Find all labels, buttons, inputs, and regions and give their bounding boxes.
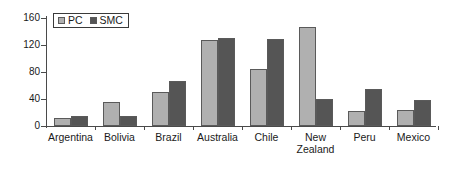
y-axis-tick-text: 0 [4,121,40,131]
bar-pc [250,69,267,126]
category-label: Mexico [383,131,444,143]
x-axis-tick [438,126,439,130]
y-axis-tick-label: 120 [0,40,40,50]
legend-label-smc: SMC [100,15,123,26]
legend-label-pc: PC [68,15,83,26]
legend-swatch-pc-icon [58,17,65,24]
x-axis-line [46,126,436,127]
x-axis-tick [95,126,96,130]
y-axis-tick-text: 80 [4,67,40,77]
bar-pc [348,111,365,126]
bar-chart: 04080120160 ArgentinaBoliviaBrazilAustra… [0,0,454,171]
bar-smc [120,116,137,126]
bar-group [299,18,333,126]
bar-smc [316,99,333,126]
x-axis-tick [193,126,194,130]
x-axis-tick [340,126,341,130]
y-axis-tick-label: 80 [0,67,40,77]
y-axis-tick-text: 120 [4,40,40,50]
bar-smc [414,100,431,126]
y-axis-tick-label: 0 [0,121,40,131]
bar-smc [267,39,284,126]
bar-group [201,18,235,126]
bar-group [348,18,382,126]
chart-legend: PC SMC [53,13,129,28]
y-axis-tick [41,126,46,127]
plot-area [46,18,438,126]
bar-group [103,18,137,126]
x-axis-tick [389,126,390,130]
x-axis-tick [242,126,243,130]
legend-entry-smc: SMC [90,15,123,26]
bar-pc [299,27,316,126]
bar-pc [103,102,120,126]
y-axis-tick-label: 160 [0,13,40,23]
bar-smc [365,89,382,126]
x-axis-tick [144,126,145,130]
legend-swatch-smc-icon [90,17,97,24]
y-axis-tick-text: 160 [4,13,40,23]
bar-group [54,18,88,126]
bar-smc [71,116,88,126]
y-axis-tick-label: 40 [0,94,40,104]
bar-pc [152,92,169,126]
bar-pc [201,40,218,126]
y-axis-tick-text: 40 [4,94,40,104]
legend-entry-pc: PC [58,15,83,26]
bar-pc [397,110,414,126]
bar-pc [54,118,71,126]
bar-smc [169,81,186,126]
bar-smc [218,38,235,126]
bar-group [152,18,186,126]
bar-group [397,18,431,126]
bar-group [250,18,284,126]
x-axis-tick [291,126,292,130]
